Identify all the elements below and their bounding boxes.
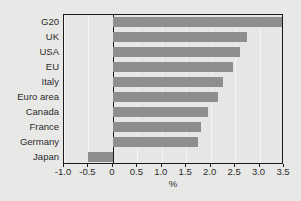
category-label: UK <box>0 31 59 42</box>
tick-label: -1.0 <box>55 166 71 177</box>
category-label: Germany <box>0 136 59 147</box>
bar-row <box>64 105 282 120</box>
bar <box>113 62 233 72</box>
category-label: EU <box>0 61 59 72</box>
category-axis-labels: G20UKUSAEUItalyEuro areaCanadaFranceGerm… <box>0 14 59 164</box>
tick-label: 2.5 <box>228 166 241 177</box>
category-label: Euro area <box>0 91 59 102</box>
category-label: USA <box>0 46 59 57</box>
bar-row <box>64 30 282 45</box>
bar-row <box>64 150 282 164</box>
tick-label: 1.0 <box>154 166 167 177</box>
bar <box>113 92 218 102</box>
tick-label: 2.0 <box>203 166 216 177</box>
bar-row <box>64 120 282 135</box>
category-label: Italy <box>0 76 59 87</box>
bar <box>113 137 199 147</box>
tick-label: 0.5 <box>130 166 143 177</box>
bar <box>113 17 283 27</box>
tick-label: 1.5 <box>179 166 192 177</box>
bar-row <box>64 15 282 30</box>
bar-row <box>64 45 282 60</box>
tick-label: 3.0 <box>252 166 265 177</box>
category-label: Canada <box>0 106 59 117</box>
x-axis-title: % <box>0 178 283 189</box>
bar-chart: G20UKUSAEUItalyEuro areaCanadaFranceGerm… <box>0 0 301 201</box>
bar <box>113 47 240 57</box>
bar <box>113 77 223 87</box>
tick-label: 3.5 <box>276 166 289 177</box>
bar-row <box>64 60 282 75</box>
plot-area <box>63 14 283 164</box>
tick-label: 0 <box>109 166 114 177</box>
tick-label: -0.5 <box>79 166 95 177</box>
category-label: G20 <box>0 16 59 27</box>
bar <box>113 107 208 117</box>
bar <box>88 152 112 162</box>
bar-row <box>64 75 282 90</box>
bar-row <box>64 135 282 150</box>
bar-row <box>64 90 282 105</box>
category-label: Japan <box>0 151 59 162</box>
bar <box>113 122 201 132</box>
bar <box>113 32 247 42</box>
category-label: France <box>0 121 59 132</box>
